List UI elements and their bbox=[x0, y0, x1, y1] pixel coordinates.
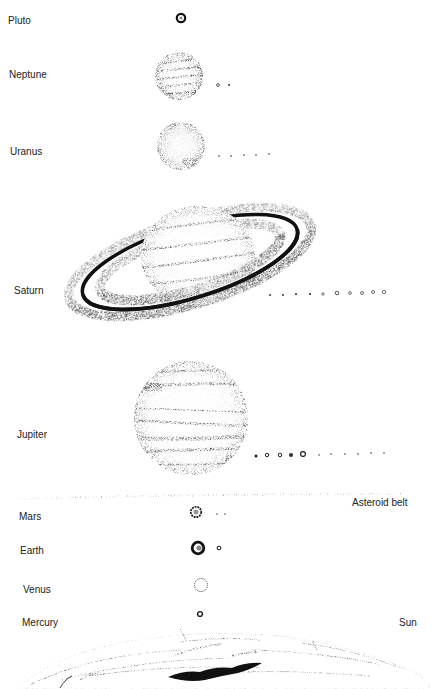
label-mars: Mars bbox=[19, 511, 41, 522]
solar-system-illustration bbox=[0, 0, 431, 689]
uranus-moons bbox=[218, 153, 270, 157]
label-neptune: Neptune bbox=[9, 69, 47, 80]
asteroid-belt bbox=[18, 494, 405, 499]
venus-planet bbox=[195, 579, 208, 592]
jupiter-moons bbox=[255, 452, 385, 458]
jupiter-planet bbox=[130, 361, 250, 475]
label-pluto: Pluto bbox=[8, 15, 31, 26]
label-asteroid-belt: Asteroid belt bbox=[352, 497, 408, 508]
mars-planet bbox=[191, 507, 201, 517]
uranus-planet bbox=[157, 122, 205, 170]
saturn-moons bbox=[269, 290, 386, 296]
mars-moons bbox=[216, 513, 225, 514]
neptune-moons bbox=[217, 84, 230, 87]
earth-moon bbox=[217, 546, 221, 550]
label-mercury: Mercury bbox=[22, 617, 58, 628]
label-uranus: Uranus bbox=[10, 146, 42, 157]
pluto-planet bbox=[177, 14, 185, 22]
neptune-planet bbox=[150, 52, 210, 100]
label-venus: Venus bbox=[23, 584, 51, 595]
earth-planet bbox=[192, 542, 204, 554]
label-sun: Sun bbox=[399, 617, 417, 628]
saturn-planet bbox=[57, 185, 323, 339]
label-saturn: Saturn bbox=[14, 285, 43, 296]
label-jupiter: Jupiter bbox=[17, 429, 47, 440]
mercury-planet bbox=[198, 612, 203, 617]
label-earth: Earth bbox=[20, 545, 44, 556]
sun-surface bbox=[15, 628, 431, 689]
